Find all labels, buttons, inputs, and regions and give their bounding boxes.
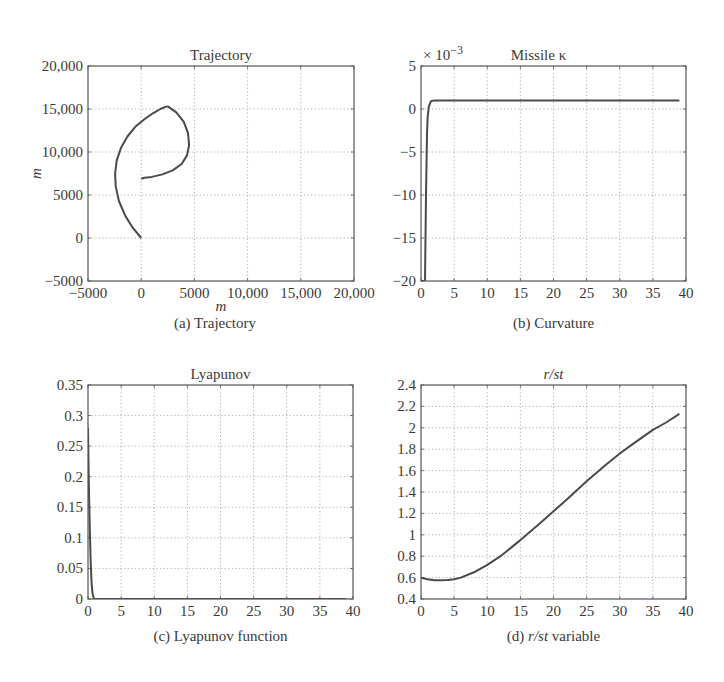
y-tick-label: 1.4: [397, 484, 416, 500]
x-axis-label: m: [216, 298, 227, 314]
y-tick-label: −20: [393, 273, 416, 289]
y-tick-label: 0.1: [64, 530, 83, 546]
y-tick-labels: 00.050.10.150.20.250.30.35: [57, 377, 83, 607]
x-tick-label: 35: [312, 603, 327, 619]
y-tick-label: 1.6: [397, 463, 416, 479]
x-tick-label: 10: [480, 603, 495, 619]
panel-caption: (c) Lyapunov function: [153, 628, 288, 645]
x-tick-label: 40: [346, 603, 361, 619]
panel-r-over-st: 05101520253035400.40.60.811.21.41.61.822…: [397, 366, 693, 645]
y-tick-label: 20,000: [42, 58, 83, 74]
x-tick-label: 40: [679, 285, 694, 301]
y-tick-label: 2: [409, 420, 417, 436]
figure: −50000500010,00015,00020,000−50000500010…: [0, 0, 724, 682]
y-tick-label: 0.2: [64, 469, 83, 485]
plot-area: [88, 385, 353, 599]
figure-canvas: −50000500010,00015,00020,000−50000500010…: [0, 0, 724, 682]
panel-trajectory: −50000500010,00015,00020,000−50000500010…: [28, 47, 375, 332]
y-tick-labels: −20−15−10−505: [393, 58, 416, 289]
y-tick-label: −5: [400, 144, 416, 160]
x-tick-label: 15,000: [280, 285, 321, 301]
panel-lyapunov: 051015202530354000.050.10.150.20.250.30.…: [57, 366, 361, 645]
y-tick-label: 0.25: [57, 438, 83, 454]
panel-title: Trajectory: [190, 47, 252, 63]
x-tick-label: 5: [450, 603, 458, 619]
x-tick-label: 25: [579, 603, 594, 619]
y-tick-label: 0.15: [57, 499, 83, 515]
y-tick-label: 0: [409, 101, 417, 117]
plot-area: [421, 66, 686, 281]
x-tick-label: 20: [546, 603, 561, 619]
x-tick-labels: 0510152025303540: [417, 603, 693, 619]
y-tick-label: 0.05: [57, 560, 83, 576]
x-tick-label: 30: [279, 603, 294, 619]
y-tick-label: 0.35: [57, 377, 83, 393]
y-tick-label: 0.6: [397, 570, 416, 586]
x-tick-label: 30: [612, 285, 627, 301]
x-tick-label: 5: [117, 603, 125, 619]
x-tick-label: 20: [213, 603, 228, 619]
y-tick-label: 0.8: [397, 548, 416, 564]
y-tick-label: 10,000: [42, 144, 83, 160]
x-tick-label: 35: [645, 285, 660, 301]
exponent-label: × 10−3: [423, 43, 463, 63]
y-tick-label: 1.8: [397, 441, 416, 457]
y-tick-label: 0: [76, 230, 84, 246]
x-tick-label: 25: [579, 285, 594, 301]
x-tick-labels: 0510152025303540: [417, 285, 693, 301]
y-axis-label: m: [28, 168, 44, 179]
x-tick-label: 25: [246, 603, 261, 619]
x-tick-label: 20: [546, 285, 561, 301]
x-tick-label: 10,000: [227, 285, 268, 301]
y-tick-label: 5000: [53, 187, 83, 203]
x-tick-label: 0: [84, 603, 92, 619]
y-tick-label: 2.4: [397, 377, 416, 393]
x-tick-label: 15: [513, 285, 528, 301]
panel-caption: (b) Curvature: [513, 315, 595, 332]
x-tick-label: 0: [417, 285, 425, 301]
y-tick-label: 0: [76, 591, 84, 607]
x-tick-label: 30: [612, 603, 627, 619]
x-tick-label: 0: [417, 603, 425, 619]
y-tick-label: 0.4: [397, 591, 416, 607]
panel-caption: (a) Trajectory: [174, 315, 257, 332]
y-tick-label: 0.3: [64, 408, 83, 424]
panel-curvature: 0510152025303540−20−15−10−505× 10−3Missi…: [393, 43, 694, 332]
x-tick-labels: 0510152025303540: [84, 603, 360, 619]
y-tick-labels: 0.40.60.811.21.41.61.822.22.4: [397, 377, 416, 607]
x-tick-label: 35: [645, 603, 660, 619]
plot-area: [88, 66, 354, 281]
panel-title: r/st: [543, 366, 564, 382]
x-tick-label: 15: [180, 603, 195, 619]
y-tick-label: 5: [409, 58, 417, 74]
y-tick-label: −10: [393, 187, 416, 203]
x-tick-label: 0: [137, 285, 145, 301]
panel-title: Missile κ: [511, 47, 567, 63]
x-tick-label: 20,000: [333, 285, 374, 301]
y-tick-label: 1: [409, 527, 417, 543]
y-tick-label: −15: [393, 230, 416, 246]
y-tick-label: −5000: [45, 273, 83, 289]
panel-caption: (d) r/st variable: [507, 628, 601, 645]
x-tick-label: 5000: [179, 285, 209, 301]
y-tick-labels: −50000500010,00015,00020,000: [42, 58, 83, 289]
y-tick-label: 15,000: [42, 101, 83, 117]
x-tick-label: 5: [450, 285, 458, 301]
x-tick-label: 15: [513, 603, 528, 619]
y-tick-label: 2.2: [397, 398, 416, 414]
x-tick-label: 10: [147, 603, 162, 619]
x-tick-label: 40: [679, 603, 694, 619]
x-tick-label: 10: [480, 285, 495, 301]
panel-title: Lyapunov: [191, 366, 251, 382]
y-tick-label: 1.2: [397, 505, 416, 521]
